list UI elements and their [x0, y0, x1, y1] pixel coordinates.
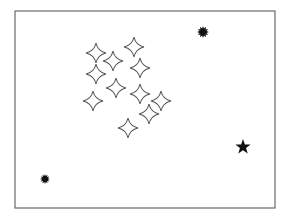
- sparkle-icon: [106, 78, 126, 98]
- sparkle-icon: [124, 37, 144, 57]
- frame-border: [15, 11, 275, 208]
- sparkle-icon: [86, 43, 106, 63]
- sparkle-icon: [118, 118, 138, 138]
- splat-icon: [40, 174, 50, 184]
- sparkle-icon: [151, 91, 171, 111]
- star-icon: [235, 139, 250, 153]
- sparkle-icon: [130, 84, 150, 104]
- sparkle-icon: [86, 64, 106, 84]
- sparkle-icon: [103, 51, 123, 71]
- sparkle-icon: [139, 104, 159, 124]
- sparkle-cluster: [83, 37, 171, 138]
- diagram-canvas: [0, 0, 288, 216]
- splat-markers: [40, 26, 209, 184]
- solid-star-marker: [235, 139, 250, 153]
- sparkle-icon: [83, 91, 103, 111]
- splat-icon: [197, 26, 209, 38]
- sparkle-icon: [130, 58, 150, 78]
